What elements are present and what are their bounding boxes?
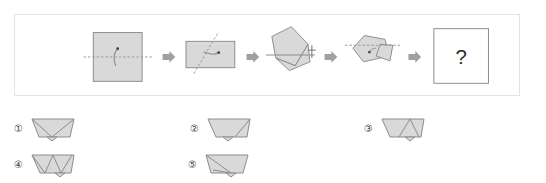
step-1-square — [93, 33, 142, 82]
option-1-number: ① — [14, 124, 27, 134]
option-2-trapezoid — [208, 119, 250, 137]
option-4-figure[interactable] — [27, 150, 79, 180]
question-panel: ? — [14, 14, 520, 96]
arrow-icon — [247, 51, 260, 63]
option-1[interactable]: ① — [14, 114, 79, 144]
arrow-icon — [163, 51, 176, 63]
sequence-diagram: ? — [15, 15, 519, 95]
step-3-rotated-shape — [266, 27, 316, 71]
step-4-pentagon-with-fold — [345, 35, 401, 61]
option-5-notch — [226, 173, 236, 177]
option-5-number: ⑤ — [188, 160, 201, 170]
puzzle-root: ? ① ② ③ ④ — [0, 0, 546, 183]
arrow-icon — [325, 51, 338, 63]
result-question-mark: ? — [455, 45, 466, 68]
option-4-number: ④ — [14, 160, 27, 170]
option-4-notch — [55, 173, 65, 177]
option-3-number: ③ — [364, 124, 377, 134]
option-3[interactable]: ③ — [364, 114, 429, 144]
option-2[interactable]: ② — [190, 114, 255, 144]
option-2-number: ② — [190, 124, 203, 134]
step-2-rectangle-with-diagonal-fold — [186, 33, 235, 74]
option-2-figure[interactable] — [203, 114, 255, 144]
step-1-fold-dot — [116, 47, 119, 50]
arrow-step-2-to-3 — [247, 51, 260, 63]
option-3-figure[interactable] — [377, 114, 429, 144]
step-5-result-square: ? — [434, 29, 489, 84]
option-1-notch — [47, 137, 57, 141]
arrow-step-1-to-2 — [163, 51, 176, 63]
arrow-icon — [408, 51, 421, 63]
step-1-square-with-horizontal-fold — [84, 33, 152, 82]
option-1-trapezoid — [32, 119, 74, 137]
step-2-fold-dot — [217, 51, 220, 54]
arrow-step-4-to-5 — [408, 51, 421, 63]
option-4[interactable]: ④ — [14, 150, 79, 180]
option-3-notch — [405, 137, 415, 141]
option-5[interactable]: ⑤ — [188, 150, 253, 180]
arrow-step-3-to-4 — [325, 51, 338, 63]
option-2-notch — [223, 137, 233, 141]
option-5-figure[interactable] — [201, 150, 253, 180]
option-1-figure[interactable] — [27, 114, 79, 144]
